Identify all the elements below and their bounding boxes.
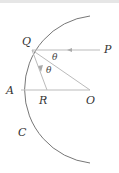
label-p: P (103, 43, 112, 56)
label-o: O (86, 94, 95, 107)
label-a: A (5, 84, 14, 97)
mirror-diagram: Q P A R O C θ θ (0, 0, 119, 173)
arrow-left-icon (67, 48, 72, 52)
theta-label-2: θ (46, 65, 52, 75)
reflected-ray (32, 50, 47, 90)
label-c: C (18, 126, 27, 139)
label-q: Q (22, 35, 31, 48)
theta-label-1: θ (52, 52, 58, 62)
label-r: R (38, 94, 47, 107)
